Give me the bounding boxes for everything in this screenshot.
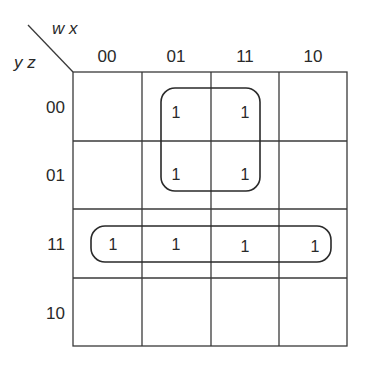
- row-header: 11: [47, 235, 65, 254]
- row-header: 00: [46, 98, 65, 117]
- row-header: 01: [46, 166, 65, 185]
- cell: 1: [172, 166, 181, 183]
- cell: 1: [172, 104, 181, 121]
- column-header: 00: [98, 47, 117, 66]
- column-variables-label: w x: [52, 19, 78, 38]
- cell: 1: [311, 238, 320, 255]
- column-header: 11: [236, 47, 254, 66]
- column-header: 10: [304, 47, 323, 66]
- cell: 1: [172, 236, 181, 253]
- row-header: 10: [46, 304, 65, 323]
- cell: 1: [109, 236, 118, 253]
- cell: 1: [241, 238, 250, 255]
- column-header: 01: [167, 47, 186, 66]
- row-variables-label: y z: [13, 53, 36, 72]
- cell: 1: [241, 104, 250, 121]
- grid: [73, 72, 347, 346]
- karnaugh-map: w x y z 00 01 11 10 00 01 11 10 1 1 1 1 …: [0, 0, 373, 369]
- cell: 1: [241, 166, 250, 183]
